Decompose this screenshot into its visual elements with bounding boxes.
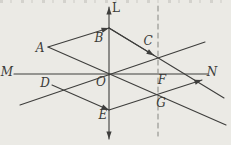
vector-B-C-arrowhead-icon [146,49,154,55]
label-F: F [157,73,167,87]
label-O: O [96,75,106,89]
axis-L-lower-arrowhead-icon [106,132,111,140]
axis-L-upper-arrowhead-icon [106,7,111,15]
label-M: M [0,65,14,79]
diagram-canvas: LMNABCODEFG [0,0,231,145]
label-L: L [112,1,120,15]
label-D: D [39,76,50,90]
geometry-figure: LMNABCODEFG [0,0,231,145]
label-G: G [156,96,166,110]
label-E: E [98,108,108,122]
label-B: B [94,31,104,45]
label-A: A [35,41,45,55]
label-C: C [143,34,152,48]
label-N: N [206,65,218,79]
